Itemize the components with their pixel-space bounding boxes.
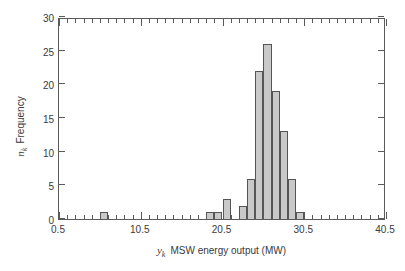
histogram-bar bbox=[100, 212, 108, 219]
y-axis-tick bbox=[59, 151, 65, 152]
x-axis-label: ykMSW energy output (MW) bbox=[58, 244, 385, 259]
x-axis-minor-tick bbox=[312, 19, 313, 23]
x-axis-minor-tick bbox=[272, 19, 273, 23]
x-axis-tick-label: 10.5 bbox=[130, 224, 149, 235]
x-axis-minor-tick bbox=[75, 19, 76, 23]
x-axis-tick-label: 30.5 bbox=[294, 224, 313, 235]
x-axis-minor-tick bbox=[263, 215, 264, 219]
y-axis-label: nkFrequency bbox=[14, 62, 29, 192]
y-axis-tick bbox=[59, 83, 65, 84]
x-axis-minor-tick bbox=[321, 19, 322, 23]
y-axis-label-subscript: k bbox=[20, 148, 29, 152]
x-axis-minor-tick bbox=[239, 215, 240, 219]
y-axis-tick-label: 10 bbox=[43, 147, 54, 158]
x-axis-minor-tick bbox=[255, 19, 256, 23]
x-axis-minor-tick bbox=[345, 215, 346, 219]
x-axis-minor-tick bbox=[84, 215, 85, 219]
x-axis-minor-tick bbox=[190, 19, 191, 23]
x-axis-major-tick bbox=[223, 212, 224, 219]
y-axis-tick bbox=[378, 218, 384, 219]
x-axis-minor-tick bbox=[173, 19, 174, 23]
histogram-bar bbox=[223, 199, 231, 219]
x-axis-minor-tick bbox=[157, 19, 158, 23]
x-axis-minor-tick bbox=[124, 215, 125, 219]
y-axis-tick-label: 5 bbox=[48, 181, 54, 192]
x-axis-minor-tick bbox=[165, 215, 166, 219]
x-axis-minor-tick bbox=[165, 19, 166, 23]
histogram-bar bbox=[280, 131, 288, 219]
histogram-bar bbox=[296, 212, 304, 219]
x-axis-minor-tick bbox=[280, 215, 281, 219]
x-axis-minor-tick bbox=[206, 215, 207, 219]
histogram-bar bbox=[214, 212, 222, 219]
x-axis-minor-tick bbox=[84, 19, 85, 23]
x-axis-minor-tick bbox=[116, 19, 117, 23]
x-axis-minor-tick bbox=[67, 215, 68, 219]
x-axis-minor-tick bbox=[280, 19, 281, 23]
x-axis-minor-tick bbox=[231, 215, 232, 219]
x-axis-minor-tick bbox=[345, 19, 346, 23]
histogram-bar bbox=[206, 212, 214, 219]
x-axis-minor-tick bbox=[157, 215, 158, 219]
x-axis-minor-tick bbox=[370, 19, 371, 23]
x-axis-minor-tick bbox=[133, 19, 134, 23]
y-axis-tick bbox=[378, 83, 384, 84]
x-axis-minor-tick bbox=[370, 215, 371, 219]
x-axis-minor-tick bbox=[255, 215, 256, 219]
x-axis-minor-tick bbox=[75, 215, 76, 219]
y-axis-tick-label: 30 bbox=[43, 13, 54, 24]
x-axis-minor-tick bbox=[92, 19, 93, 23]
x-axis-major-tick bbox=[59, 19, 60, 26]
x-axis-minor-tick bbox=[239, 19, 240, 23]
x-axis-minor-tick bbox=[214, 215, 215, 219]
y-axis-tick bbox=[378, 50, 384, 51]
x-axis-minor-tick bbox=[182, 215, 183, 219]
x-axis-minor-tick bbox=[198, 19, 199, 23]
x-axis-minor-tick bbox=[296, 215, 297, 219]
x-axis-tick-label: 40.5 bbox=[375, 224, 394, 235]
x-axis-minor-tick bbox=[108, 215, 109, 219]
x-axis-minor-tick bbox=[361, 19, 362, 23]
y-axis-tick bbox=[378, 184, 384, 185]
histogram-bar bbox=[255, 71, 263, 219]
x-axis-major-tick bbox=[304, 19, 305, 26]
x-axis-minor-tick bbox=[214, 19, 215, 23]
x-axis-minor-tick bbox=[378, 19, 379, 23]
x-axis-major-tick bbox=[386, 212, 387, 219]
x-axis-minor-tick bbox=[321, 215, 322, 219]
x-axis-minor-tick bbox=[231, 19, 232, 23]
x-axis-label-subscript: k bbox=[162, 250, 166, 259]
y-axis-tick-label: 20 bbox=[43, 80, 54, 91]
y-axis-tick bbox=[378, 117, 384, 118]
x-axis-minor-tick bbox=[100, 19, 101, 23]
x-axis-minor-tick bbox=[190, 215, 191, 219]
y-axis-tick-label: 25 bbox=[43, 46, 54, 57]
histogram-bar bbox=[239, 206, 247, 219]
y-axis-tick-label: 15 bbox=[43, 114, 54, 125]
x-axis-minor-tick bbox=[288, 19, 289, 23]
x-axis-minor-tick bbox=[124, 19, 125, 23]
y-axis-tick bbox=[59, 117, 65, 118]
y-axis-tick bbox=[59, 218, 65, 219]
histogram-bar bbox=[288, 179, 296, 219]
y-axis-tick bbox=[59, 184, 65, 185]
x-axis-minor-tick bbox=[92, 215, 93, 219]
histogram-figure: 051015202530 0.510.520.530.540.5 ykMSW e… bbox=[0, 0, 405, 271]
x-axis-minor-tick bbox=[312, 215, 313, 219]
x-axis-major-tick bbox=[223, 19, 224, 26]
x-axis-minor-tick bbox=[263, 19, 264, 23]
histogram-bars bbox=[59, 19, 384, 219]
x-axis-tick-label: 0.5 bbox=[51, 224, 65, 235]
x-axis-minor-tick bbox=[108, 19, 109, 23]
x-axis-minor-tick bbox=[296, 19, 297, 23]
x-axis-minor-tick bbox=[247, 19, 248, 23]
x-axis-major-tick bbox=[141, 19, 142, 26]
y-axis-tick bbox=[378, 16, 384, 17]
y-axis-tick bbox=[59, 16, 65, 17]
x-axis-minor-tick bbox=[353, 19, 354, 23]
x-axis-major-tick bbox=[386, 19, 387, 26]
x-axis-minor-tick bbox=[149, 215, 150, 219]
x-axis-minor-tick bbox=[247, 215, 248, 219]
plot-area bbox=[58, 18, 385, 220]
x-axis-minor-tick bbox=[329, 19, 330, 23]
